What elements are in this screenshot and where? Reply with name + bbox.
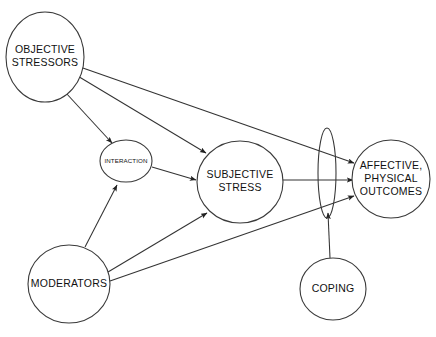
node-label-subjective-stress: SUBJECTIVE (207, 168, 274, 180)
edge-moderators-to-interaction (85, 185, 117, 247)
edge-moderators-to-subjective (108, 213, 207, 272)
node-mediator-lens[interactable] (318, 128, 336, 218)
node-label-objective-stressors: OBJECTIVE (15, 43, 75, 55)
diagram-canvas: OBJECTIVESTRESSORSINTERACTIONSUBJECTIVES… (0, 0, 436, 337)
node-interaction[interactable]: INTERACTION (100, 140, 152, 182)
node-shape-mediator-lens (318, 128, 336, 218)
node-label-affective-physical-outcomes: OUTCOMES (360, 185, 422, 197)
node-coping[interactable]: COPING (300, 258, 366, 320)
node-label-subjective-stress: STRESS (218, 181, 261, 193)
node-subjective-stress[interactable]: SUBJECTIVESTRESS (197, 141, 283, 223)
nodes-layer: OBJECTIVESTRESSORSINTERACTIONSUBJECTIVES… (6, 12, 430, 323)
diagram-svg: OBJECTIVESTRESSORSINTERACTIONSUBJECTIVES… (0, 0, 436, 337)
node-label-objective-stressors: STRESSORS (12, 56, 79, 68)
node-label-interaction: INTERACTION (104, 157, 147, 164)
edge-objective-to-interaction (66, 93, 112, 143)
edge-coping-to-lens (328, 213, 330, 258)
node-objective-stressors[interactable]: OBJECTIVESTRESSORS (6, 12, 84, 102)
edge-objective-to-subjective (76, 75, 206, 153)
node-label-affective-physical-outcomes: AFFECTIVE, (360, 159, 423, 171)
node-moderators[interactable]: MODERATORS (28, 245, 110, 323)
node-label-affective-physical-outcomes: PHYSICAL (364, 172, 418, 184)
edge-interaction-to-subjective (152, 167, 196, 180)
node-label-moderators: MODERATORS (31, 277, 107, 289)
node-label-coping: COPING (312, 282, 355, 294)
node-affective-physical-outcomes[interactable]: AFFECTIVE,PHYSICALOUTCOMES (352, 140, 430, 218)
